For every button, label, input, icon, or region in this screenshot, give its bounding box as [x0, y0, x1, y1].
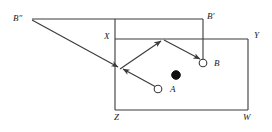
arrow-cushion-to-top-vertex [120, 41, 161, 69]
arrow-top-vertex-to-b [164, 40, 200, 59]
label-b-prime: B′ [207, 12, 214, 21]
label-y: Y [254, 31, 259, 40]
ball-cue-black [172, 71, 181, 80]
label-a: A [170, 85, 176, 94]
diagram-canvas [0, 0, 272, 132]
label-x: X [104, 32, 110, 41]
ball-a [154, 85, 162, 93]
arrow-a-to-cushion [123, 69, 156, 87]
ball-b [199, 59, 207, 67]
label-b-double-prime: B″ [13, 14, 22, 23]
label-b: B [214, 59, 220, 68]
label-w: W [243, 113, 251, 122]
billiard-reflection-diagram: B″ B′ X Y Z W A B [0, 0, 272, 132]
label-z: Z [114, 113, 119, 122]
arrow-b-double-prime-to-cushion [32, 20, 118, 67]
